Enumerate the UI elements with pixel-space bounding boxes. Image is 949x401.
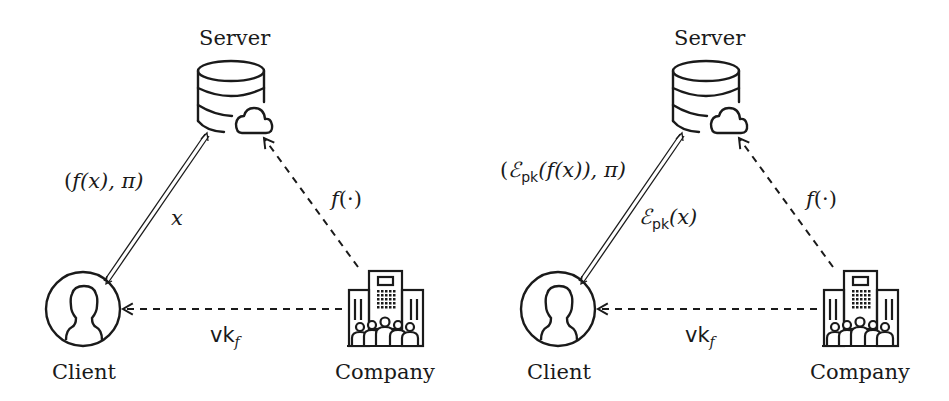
company-label: Company <box>335 362 435 383</box>
office-building-people-icon <box>347 271 424 346</box>
client-server-channel <box>104 133 209 284</box>
client-label: Client <box>52 362 116 383</box>
client-label: Client <box>527 362 591 383</box>
function-label: f(·) <box>806 189 837 210</box>
encrypted-request-label: ℰpk(x) <box>639 207 697 228</box>
server-label: Server <box>199 28 270 49</box>
server-label: Server <box>674 28 745 49</box>
encrypted-response-label: (ℰpk(f(x)), π) <box>500 160 626 181</box>
cloud-icon <box>711 108 747 133</box>
function-label: f(·) <box>331 189 362 210</box>
diagram-plain: Server Client Company (f(x), π) x f(·) v… <box>0 0 475 401</box>
database-icon <box>673 61 739 132</box>
cloud-icon <box>236 108 272 133</box>
diagram-encrypted: Server Client Company (ℰpk(f(x)), π) ℰpk… <box>475 0 949 401</box>
verification-key-label: vkf <box>685 325 715 346</box>
request-label: x <box>171 208 183 229</box>
verification-key-label: vkf <box>210 325 240 346</box>
response-label: (f(x), π) <box>64 171 144 192</box>
database-icon <box>198 61 264 132</box>
company-label: Company <box>810 362 910 383</box>
office-building-people-icon <box>822 271 899 346</box>
